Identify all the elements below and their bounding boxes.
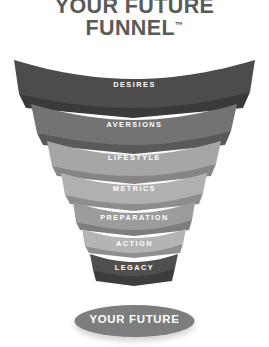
funnel-diagram: [0, 0, 269, 347]
outcome-pill-shape: [75, 305, 195, 337]
funnel-stage-legacy: [90, 254, 178, 286]
outcome-pill: [75, 305, 195, 337]
your-future-funnel-infographic: YOUR FUTURE FUNNEL™: [0, 0, 269, 347]
